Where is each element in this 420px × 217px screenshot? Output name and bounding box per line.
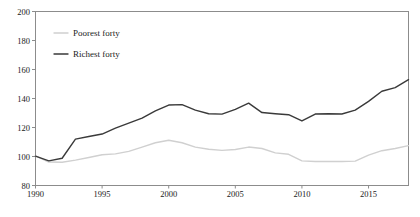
x-axis-tick-label: 2010: [293, 189, 310, 199]
legend-label-poorest-forty: Poorest forty: [73, 28, 120, 38]
x-axis-tick-label: 1995: [94, 189, 111, 199]
y-axis-tick-label: 140: [17, 94, 30, 104]
x-axis-tick-label: 2015: [360, 189, 377, 199]
y-axis-tick-label: 160: [17, 65, 30, 75]
y-axis-tick-label: 200: [17, 7, 30, 17]
y-axis-tick-label: 180: [17, 36, 30, 46]
line-chart: 80100120140160180200 1990199520002005201…: [0, 0, 420, 217]
chart-canvas: 80100120140160180200 1990199520002005201…: [0, 0, 420, 217]
x-axis-tick-label: 2005: [227, 189, 244, 199]
x-axis-tick-label: 2000: [160, 189, 177, 199]
x-axis-tick-label: 1990: [27, 189, 44, 199]
y-axis-tick-label: 100: [17, 152, 30, 162]
y-axis-tick-label: 120: [17, 123, 30, 133]
legend-label-richest-forty: Richest forty: [73, 49, 120, 59]
